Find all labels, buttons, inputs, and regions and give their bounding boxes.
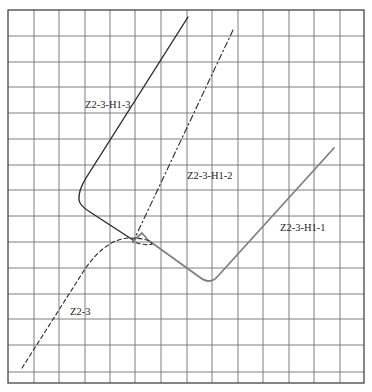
curve-label-z2-3-h1-1: Z2-3-H1-1 [280, 222, 326, 233]
interaction-diagram: Z2-3-H1-3Z2-3-H1-2Z2-3-H1-1Z2-3 [0, 0, 372, 392]
curve-z2-3 [22, 238, 152, 368]
curve-z2-3-h1-1 [133, 148, 334, 281]
curve-label-z2-3-h1-3: Z2-3-H1-3 [85, 99, 131, 110]
curve-z2-3-h1-3 [79, 17, 188, 240]
curve-labels: Z2-3-H1-3Z2-3-H1-2Z2-3-H1-1Z2-3 [70, 99, 326, 317]
curve-label-z2-3: Z2-3 [70, 306, 90, 317]
grid-border [8, 10, 364, 383]
curve-label-z2-3-h1-2: Z2-3-H1-2 [187, 170, 233, 181]
grid [8, 10, 364, 383]
curves [22, 17, 334, 368]
